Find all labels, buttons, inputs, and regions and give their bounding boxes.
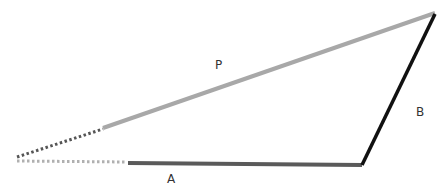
label-p: P xyxy=(215,58,222,72)
triangle-diagram xyxy=(0,0,443,196)
label-a: A xyxy=(167,172,175,186)
line-p xyxy=(103,13,435,128)
line-a xyxy=(128,163,362,165)
label-b: B xyxy=(416,105,424,119)
line-p-extension xyxy=(17,129,103,157)
line-a-extension xyxy=(17,161,127,162)
line-b xyxy=(362,14,435,165)
